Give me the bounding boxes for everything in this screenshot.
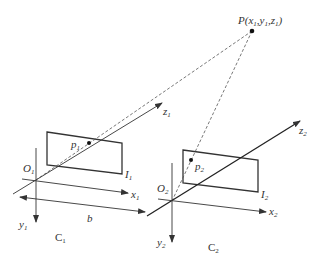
image-point-p2 bbox=[189, 158, 193, 162]
point-P-label: P(x1,y1,z1) bbox=[237, 14, 282, 28]
baseline-label: b bbox=[87, 212, 93, 224]
stereo-vision-diagram: P(x1,y1,z1) p1 O1 I1 z1 x1 y1 b C1 p2 O2… bbox=[0, 0, 319, 265]
O1-label: O1 bbox=[23, 162, 34, 176]
z1-label: z1 bbox=[162, 105, 171, 119]
x1-axis bbox=[22, 179, 128, 193]
O2-label: O2 bbox=[157, 182, 169, 196]
z2-label: z2 bbox=[298, 124, 307, 138]
image-point-p1 bbox=[87, 141, 91, 145]
z2-axis bbox=[147, 121, 300, 216]
baseline-arrow bbox=[20, 197, 145, 212]
p2-label: p2 bbox=[194, 160, 205, 174]
I2-label: I2 bbox=[260, 188, 269, 202]
projection-ray-1 bbox=[36, 31, 252, 180]
world-point-P bbox=[250, 29, 255, 34]
y2-label: y2 bbox=[156, 236, 166, 250]
x2-axis bbox=[158, 199, 266, 212]
x2-label: x2 bbox=[268, 205, 278, 219]
y1-label: y1 bbox=[18, 218, 27, 232]
x1-label: x1 bbox=[130, 188, 139, 202]
C2-label: C2 bbox=[208, 241, 219, 255]
C1-label: C1 bbox=[55, 231, 66, 245]
I1-label: I1 bbox=[124, 168, 132, 182]
p1-label: p1 bbox=[70, 138, 80, 152]
image-plane-1 bbox=[47, 132, 122, 174]
